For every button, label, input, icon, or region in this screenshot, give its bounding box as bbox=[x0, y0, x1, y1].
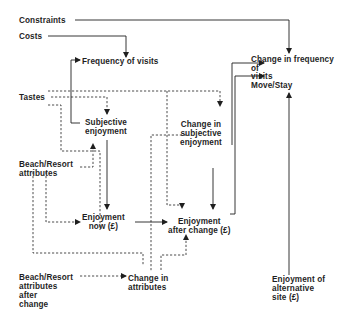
edge-constraints-to-change-frequency bbox=[75, 20, 289, 53]
node-change-in-subjective-enjoyment: Change in subjective enjoyment bbox=[180, 120, 222, 147]
node-tastes: Tastes bbox=[19, 93, 45, 102]
node-enjoyment-of-alternative-site: Enjoyment of alternative site (£) bbox=[272, 275, 325, 302]
node-enjoyment-now: Enjoyment now (£) bbox=[82, 213, 125, 231]
edge-beach-to-enjoyment-now bbox=[46, 172, 80, 222]
edge-change-attr-to-after bbox=[161, 235, 186, 270]
node-costs: Costs bbox=[19, 32, 42, 41]
node-change-in-frequency: Change in frequency of visits Move/Stay bbox=[251, 56, 334, 90]
edge-tastes-to-after-change bbox=[167, 91, 182, 208]
edge-costs-to-frequency bbox=[48, 36, 126, 57]
edge-change-attr-to-change-subjective bbox=[151, 135, 186, 272]
node-frequency-of-visits: Frequency of visits bbox=[82, 57, 159, 66]
node-change-in-attributes: Change in attributes bbox=[128, 274, 168, 292]
edge-after-to-change-frequency bbox=[230, 76, 264, 214]
diagram-canvas: Constraints Costs Frequency of visits Ch… bbox=[0, 0, 361, 322]
node-constraints: Constraints bbox=[19, 16, 66, 25]
node-beach-resort-attributes: Beach/Resort attributes bbox=[19, 160, 73, 178]
node-beach-resort-attributes-after-change: Beach/Resort attributes after change bbox=[19, 273, 73, 309]
edge-beach-to-subjective bbox=[80, 144, 93, 167]
edge-tastes-to-change-subjective bbox=[48, 91, 220, 106]
node-subjective-enjoyment: Subjective enjoyment bbox=[85, 118, 127, 136]
edge-subjective-to-frequency bbox=[71, 60, 80, 123]
edge-tastes-to-subjective bbox=[51, 97, 107, 114]
node-enjoyment-after-change: Enjoyment after change (£) bbox=[168, 217, 231, 235]
